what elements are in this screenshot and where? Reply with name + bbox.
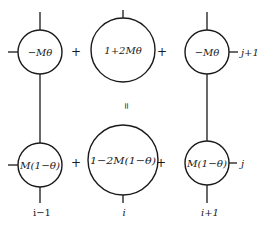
time-label-j-plus-1: j+1 (239, 47, 259, 58)
space-label-i-plus-1: i+1 (201, 207, 219, 218)
coef-top-left: −Mθ (28, 47, 53, 58)
space-label-i-minus-1: i−1 (33, 207, 51, 218)
plus-sign: + (156, 156, 166, 170)
space-label-i: i (122, 207, 125, 218)
time-label-j: j (239, 158, 244, 169)
stencil-diagram: −Mθ 1+2Mθ −Mθ M(1−θ) 1−2M(1−θ) M(1−θ) + … (0, 0, 265, 225)
stencil-canvas: −Mθ 1+2Mθ −Mθ M(1−θ) 1−2M(1−θ) M(1−θ) + … (0, 0, 265, 225)
plus-sign: + (71, 156, 81, 170)
coef-bottom-right: M(1−θ) (186, 158, 227, 169)
coef-top-center: 1+2Mθ (104, 45, 141, 56)
coef-top-right: −Mθ (195, 47, 220, 58)
coef-bottom-center: 1−2M(1−θ) (90, 155, 156, 166)
coef-bottom-left: M(1−θ) (19, 160, 60, 171)
plus-sign: + (157, 45, 167, 59)
equals-sign: = (121, 102, 131, 110)
plus-sign: + (71, 45, 81, 59)
